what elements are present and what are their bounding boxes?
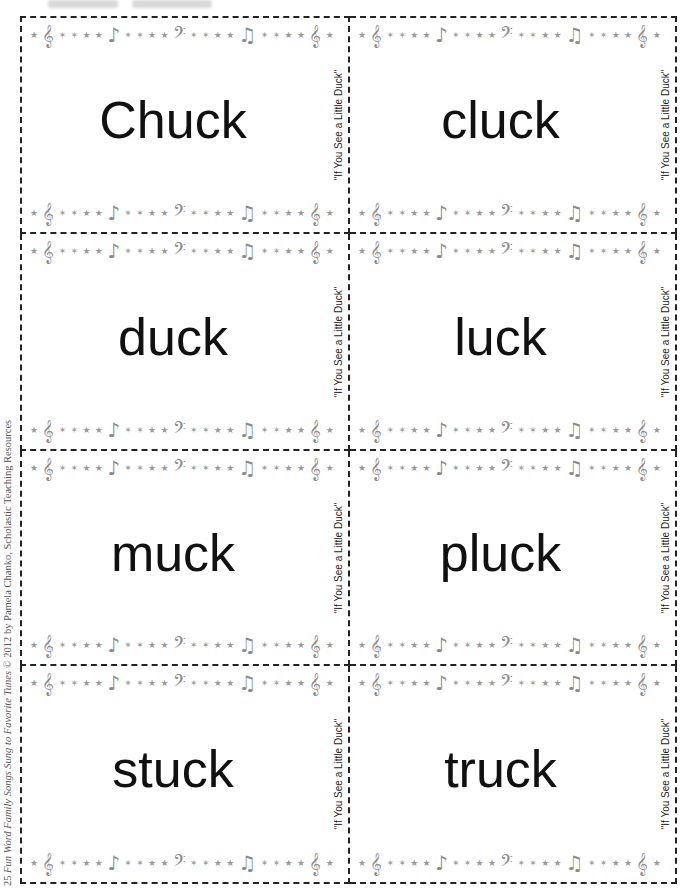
star-icon: ★ bbox=[423, 31, 431, 40]
star-icon: ★ bbox=[554, 464, 562, 473]
star-icon: ✶ bbox=[464, 426, 472, 435]
star-icon: ✶ bbox=[600, 31, 608, 40]
star-icon: ★ bbox=[612, 859, 620, 868]
star-icon: ✶ bbox=[464, 679, 472, 688]
star-icon: ★ bbox=[612, 247, 620, 256]
word-card[interactable]: ★𝄞✶✶★★♪✶✶★★𝄢✶✶★★♫✶✶★★𝄞★ Chuck "If You Se… bbox=[20, 16, 350, 234]
star-icon: ★ bbox=[285, 641, 293, 650]
card-word: luck bbox=[350, 307, 651, 367]
star-icon: ★ bbox=[148, 679, 156, 688]
star-icon: ★ bbox=[488, 641, 496, 650]
star-icon: ✶ bbox=[452, 426, 460, 435]
star-icon: ✶ bbox=[588, 426, 596, 435]
star-icon: ★ bbox=[358, 426, 366, 435]
star-icon: ✶ bbox=[136, 209, 144, 218]
star-icon: ★ bbox=[624, 464, 632, 473]
treble-clef-icon: 𝄞 bbox=[309, 673, 321, 693]
star-icon: ★ bbox=[423, 641, 431, 650]
treble-clef-icon: 𝄞 bbox=[636, 241, 648, 261]
star-icon: ★ bbox=[358, 31, 366, 40]
star-icon: ✶ bbox=[190, 641, 198, 650]
star-icon: ★ bbox=[653, 641, 661, 650]
beamed-notes-icon: ♫ bbox=[566, 420, 584, 440]
star-icon: ★ bbox=[285, 679, 293, 688]
star-icon: ★ bbox=[226, 641, 234, 650]
star-icon: ✶ bbox=[518, 679, 526, 688]
star-icon: ✶ bbox=[136, 31, 144, 40]
star-icon: ★ bbox=[82, 209, 90, 218]
star-icon: ★ bbox=[541, 859, 549, 868]
star-icon: ✶ bbox=[273, 209, 281, 218]
star-icon: ★ bbox=[423, 679, 431, 688]
star-icon: ★ bbox=[95, 464, 103, 473]
treble-clef-icon: 𝄞 bbox=[636, 673, 648, 693]
word-card[interactable]: ★𝄞✶✶★★♪✶✶★★𝄢✶✶★★♫✶✶★★𝄞★ stuck "If You Se… bbox=[20, 666, 350, 884]
bass-clef-icon: 𝄢 bbox=[500, 25, 513, 45]
eighth-note-icon: ♪ bbox=[107, 25, 120, 45]
star-icon: ★ bbox=[82, 641, 90, 650]
word-card[interactable]: ★𝄞✶✶★★♪✶✶★★𝄢✶✶★★♫✶✶★★𝄞★ pluck "If You Se… bbox=[350, 451, 677, 666]
bass-clef-icon: 𝄢 bbox=[173, 241, 186, 261]
music-ornament-border: ★𝄞✶✶★★♪✶✶★★𝄢✶✶★★♫✶✶★★𝄞★ bbox=[358, 634, 661, 656]
star-icon: ★ bbox=[358, 209, 366, 218]
star-icon: ✶ bbox=[387, 209, 395, 218]
bass-clef-icon: 𝄢 bbox=[173, 673, 186, 693]
star-icon: ★ bbox=[82, 859, 90, 868]
card-word: muck bbox=[22, 523, 324, 583]
star-icon: ✶ bbox=[452, 859, 460, 868]
word-card[interactable]: ★𝄞✶✶★★♪✶✶★★𝄢✶✶★★♫✶✶★★𝄞★ truck "If You Se… bbox=[350, 666, 677, 884]
star-icon: ★ bbox=[476, 464, 484, 473]
star-icon: ✶ bbox=[529, 679, 537, 688]
star-icon: ✶ bbox=[387, 859, 395, 868]
treble-clef-icon: 𝄞 bbox=[42, 673, 54, 693]
eighth-note-icon: ♪ bbox=[435, 853, 448, 873]
treble-clef-icon: 𝄞 bbox=[42, 25, 54, 45]
star-icon: ✶ bbox=[588, 679, 596, 688]
star-icon: ★ bbox=[160, 679, 168, 688]
star-icon: ✶ bbox=[588, 31, 596, 40]
music-ornament-border: ★𝄞✶✶★★♪✶✶★★𝄢✶✶★★♫✶✶★★𝄞★ bbox=[358, 240, 661, 262]
word-card[interactable]: ★𝄞✶✶★★♪✶✶★★𝄢✶✶★★♫✶✶★★𝄞★ luck "If You See… bbox=[350, 234, 677, 451]
star-icon: ✶ bbox=[202, 641, 210, 650]
music-ornament-border: ★𝄞✶✶★★♪✶✶★★𝄢✶✶★★♫✶✶★★𝄞★ bbox=[358, 672, 661, 694]
star-icon: ✶ bbox=[202, 464, 210, 473]
word-card[interactable]: ★𝄞✶✶★★♪✶✶★★𝄢✶✶★★♫✶✶★★𝄞★ duck "If You See… bbox=[20, 234, 350, 451]
star-icon: ★ bbox=[410, 679, 418, 688]
star-icon: ★ bbox=[214, 426, 222, 435]
star-icon: ✶ bbox=[518, 31, 526, 40]
bass-clef-icon: 𝄢 bbox=[173, 203, 186, 223]
star-icon: ★ bbox=[476, 31, 484, 40]
star-icon: ✶ bbox=[464, 31, 472, 40]
star-icon: ★ bbox=[285, 464, 293, 473]
star-icon: ✶ bbox=[190, 31, 198, 40]
star-icon: ★ bbox=[30, 679, 38, 688]
eighth-note-icon: ♪ bbox=[107, 458, 120, 478]
star-icon: ★ bbox=[297, 209, 305, 218]
star-icon: ✶ bbox=[518, 247, 526, 256]
star-icon: ★ bbox=[148, 209, 156, 218]
star-icon: ✶ bbox=[59, 464, 67, 473]
treble-clef-icon: 𝄞 bbox=[370, 673, 382, 693]
treble-clef-icon: 𝄞 bbox=[636, 203, 648, 223]
star-icon: ✶ bbox=[529, 247, 537, 256]
star-icon: ✶ bbox=[124, 859, 132, 868]
song-title-label: "If You See a Little Duck" bbox=[333, 699, 345, 849]
word-card[interactable]: ★𝄞✶✶★★♪✶✶★★𝄢✶✶★★♫✶✶★★𝄞★ muck "If You See… bbox=[20, 451, 350, 666]
star-icon: ✶ bbox=[71, 859, 79, 868]
star-icon: ★ bbox=[410, 426, 418, 435]
star-icon: ✶ bbox=[124, 679, 132, 688]
star-icon: ✶ bbox=[529, 641, 537, 650]
star-icon: ★ bbox=[423, 247, 431, 256]
treble-clef-icon: 𝄞 bbox=[309, 203, 321, 223]
star-icon: ★ bbox=[214, 209, 222, 218]
star-icon: ✶ bbox=[398, 31, 406, 40]
star-icon: ✶ bbox=[71, 247, 79, 256]
star-icon: ★ bbox=[326, 859, 334, 868]
eighth-note-icon: ♪ bbox=[435, 673, 448, 693]
star-icon: ✶ bbox=[190, 209, 198, 218]
beamed-notes-icon: ♫ bbox=[566, 458, 584, 478]
star-icon: ✶ bbox=[71, 426, 79, 435]
star-icon: ★ bbox=[423, 464, 431, 473]
word-card[interactable]: ★𝄞✶✶★★♪✶✶★★𝄢✶✶★★♫✶✶★★𝄞★ cluck "If You Se… bbox=[350, 16, 677, 234]
star-icon: ★ bbox=[82, 247, 90, 256]
